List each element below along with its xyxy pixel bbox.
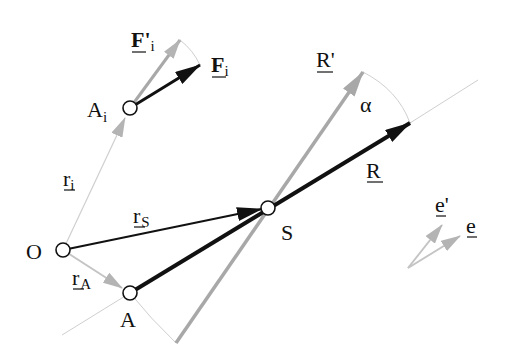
vector-e-prime (408, 225, 442, 268)
label-F-i-main: F (211, 52, 224, 77)
label-Ai-sub: i (103, 109, 107, 125)
label-F-prime-i: F'i (131, 27, 155, 54)
label-r-S: rS (133, 203, 150, 230)
label-A: A (120, 307, 136, 332)
point-S (261, 201, 275, 215)
label-e: e (466, 213, 476, 238)
unit-vectors (408, 225, 460, 268)
label-F-prime-i-main: F' (131, 27, 151, 52)
label-Ai-main: A (87, 97, 103, 122)
point-O (56, 243, 70, 257)
point-Ai (123, 101, 137, 115)
label-r-A: rA (72, 265, 91, 292)
label-r-S-sub: S (141, 214, 149, 230)
label-F-prime-i-sub: i (151, 38, 155, 54)
label-S: S (281, 220, 293, 245)
vector-F-i (130, 65, 200, 108)
label-Ai: Ai (87, 97, 107, 125)
label-O: O (26, 239, 42, 264)
label-r-A-main: r (72, 265, 80, 290)
vector-e (408, 236, 460, 268)
label-F-i: Fi (211, 52, 229, 79)
label-alpha: α (360, 92, 372, 117)
force-system-diagram: O A Ai S ri rS rA F'i Fi R' α R e' e (0, 0, 507, 361)
F-arc (180, 40, 200, 65)
label-e-prime: e' (435, 192, 449, 217)
R-line-extension (410, 80, 478, 123)
label-R: R (366, 158, 381, 183)
point-A (123, 286, 137, 300)
label-r-S-main: r (133, 203, 141, 228)
label-r-i: ri (63, 166, 75, 193)
label-R-prime: R' (316, 47, 335, 72)
A-to-Rprime-base-line (130, 293, 176, 343)
label-r-i-sub: i (70, 177, 74, 193)
